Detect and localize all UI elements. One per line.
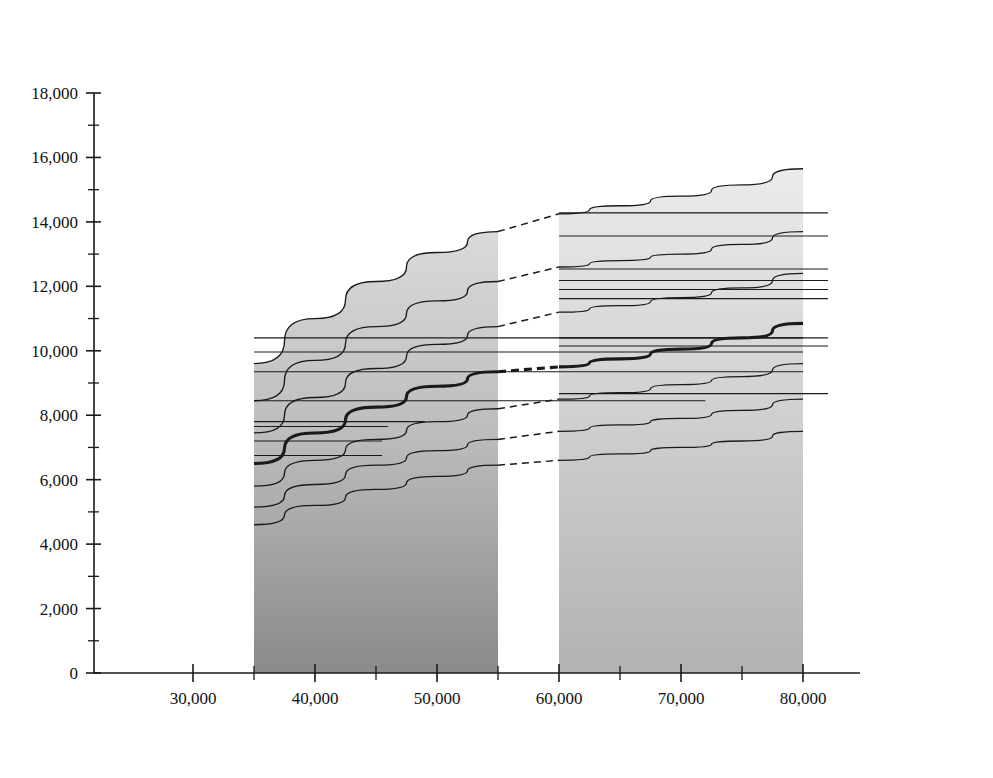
y-axis-tick-label: 14,000 [31,213,78,232]
y-axis-tick-label: 16,000 [31,148,78,167]
speed-curve-gap-dashed [498,460,559,465]
x-axis-tick-label: 80,000 [780,689,827,708]
x-axis-tick-label: 30,000 [170,689,217,708]
panamax-region-shading [559,169,803,673]
x-axis-tick-label: 60,000 [536,689,583,708]
y-axis-tick-label: 12,000 [31,277,78,296]
region-shading [254,169,803,673]
x-axis-tick-label: 50,000 [414,689,461,708]
speed-curve-gap-dashed [498,267,559,282]
speed-curve-gap-dashed [498,312,559,327]
speed-curve-gap-dashed [498,367,559,372]
figure-container: 02,0004,0006,0008,00010,00012,00014,0001… [0,0,993,778]
y-axis-tick-label: 8,000 [40,406,78,425]
x-axis-tick-label: 40,000 [292,689,339,708]
y-axis-tick-label: 0 [70,664,79,683]
speed-curve-gap-dashed [498,431,559,439]
smcr-power-chart: 02,0004,0006,0008,00010,00012,00014,0001… [0,0,993,778]
x-axis-tick-label: 70,000 [658,689,705,708]
y-axis-tick-label: 18,000 [31,84,78,103]
y-axis-tick-label: 4,000 [40,535,78,554]
speed-curve-gap-dashed [498,214,559,232]
y-axis-tick-label: 2,000 [40,600,78,619]
y-axis-tick-label: 6,000 [40,471,78,490]
y-axis-tick-label: 10,000 [31,342,78,361]
